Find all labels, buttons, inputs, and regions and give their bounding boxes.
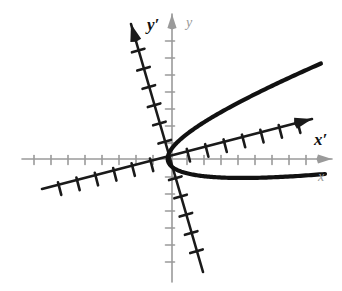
coordinate-graph: y′ y x′ x (0, 0, 342, 291)
x-axis-label: x (317, 169, 325, 184)
x-prime-axis-label: x′ (313, 130, 327, 149)
x-axis (22, 154, 332, 164)
x-axis-arrowhead (317, 154, 333, 163)
tick-mark (137, 67, 149, 71)
original-axes-group (22, 14, 332, 282)
y-axis-arrowhead (167, 14, 176, 30)
y-axis-label: y (184, 15, 193, 30)
rotated-axes-group (42, 24, 312, 272)
y-prime-axis (130, 24, 203, 272)
y-prime-axis-arrowhead (130, 24, 141, 42)
tick-mark (143, 85, 155, 89)
y-prime-axis-line (131, 24, 203, 272)
tick-mark (153, 122, 165, 126)
tick-mark (190, 249, 202, 253)
tick-mark (132, 49, 144, 53)
tick-mark (185, 231, 197, 235)
tick-mark (174, 195, 186, 199)
figure-container: y′ y x′ x (0, 0, 342, 291)
tick-mark (180, 213, 192, 217)
y-prime-axis-label: y′ (145, 15, 159, 34)
x-prime-axis-arrowhead (294, 118, 312, 129)
tick-mark (148, 103, 160, 107)
